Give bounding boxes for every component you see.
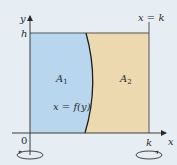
rotation-arrow-x-equals-k-icon xyxy=(136,151,162,159)
h-label: h xyxy=(21,28,27,39)
curve-label: x = f(y) xyxy=(53,101,91,112)
line-label: x = k xyxy=(138,12,164,23)
origin-label: 0 xyxy=(21,135,27,146)
diagram: y x 0 h k x = k A1 A2 x = f(y) xyxy=(0,0,177,165)
y-axis-label: y xyxy=(19,13,26,24)
k-label: k xyxy=(146,137,152,148)
x-axis-label: x xyxy=(168,136,174,147)
